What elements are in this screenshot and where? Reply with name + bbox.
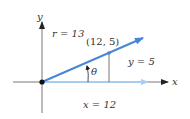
point-marker xyxy=(107,51,111,55)
origin-point xyxy=(39,79,44,84)
r-label: r = 13 xyxy=(52,28,84,39)
point-label: (12, 5) xyxy=(86,36,119,47)
theta-label: θ xyxy=(91,66,97,77)
x-leg-label: x = 12 xyxy=(83,99,116,110)
y-axis-label: y xyxy=(36,11,43,22)
x-axis-label: x xyxy=(172,76,178,87)
angle-arc-icon xyxy=(87,66,88,82)
y-leg-label: y = 5 xyxy=(127,56,155,67)
polar-coordinate-diagram: y x r = 13 (12, 5) y = 5 x = 12 θ xyxy=(0,0,190,119)
